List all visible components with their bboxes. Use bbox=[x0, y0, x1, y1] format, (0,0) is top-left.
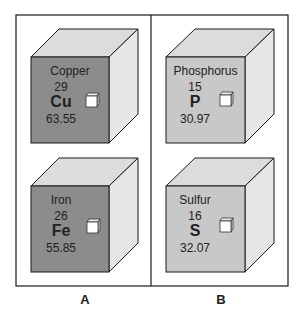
element-symbol: Fe bbox=[31, 222, 91, 240]
atomic-mass: 63.55 bbox=[31, 112, 91, 126]
element-symbol: P bbox=[166, 93, 224, 111]
element-name: Phosphorus bbox=[166, 64, 245, 78]
element-name: Sulfur bbox=[166, 193, 224, 207]
diagram-frame bbox=[0, 0, 299, 319]
atomic-mass: 30.97 bbox=[166, 112, 224, 126]
element-symbol: Cu bbox=[31, 93, 91, 111]
atomic-number: 16 bbox=[166, 209, 224, 223]
element-name: Copper bbox=[31, 64, 109, 78]
element-name: Iron bbox=[31, 193, 91, 207]
atomic-number: 15 bbox=[166, 80, 224, 94]
panel-label-b: B bbox=[196, 292, 246, 307]
element-symbol: S bbox=[166, 222, 224, 240]
atomic-mass: 32.07 bbox=[166, 241, 224, 255]
panel-label-a: A bbox=[60, 292, 110, 307]
atomic-number: 26 bbox=[31, 209, 91, 223]
atomic-mass: 55.85 bbox=[31, 241, 91, 255]
atomic-number: 29 bbox=[31, 80, 91, 94]
